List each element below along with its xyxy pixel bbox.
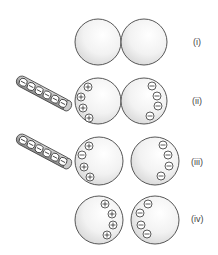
stage-label-ii: (ii) [192,96,202,106]
stage-label-i: (i) [193,37,201,47]
sphere-left [75,137,123,185]
sphere-right [131,137,179,185]
stage-ii [14,74,167,124]
stage-iii [14,132,179,185]
sphere-right [121,19,167,65]
charged-rod [14,74,73,112]
stage-label-iv: (iv) [191,214,204,224]
induction-diagram [0,0,218,255]
sphere-left [75,19,121,65]
sphere-right [131,196,179,244]
stage-label-iii: (iii) [191,157,203,167]
sphere-left [75,196,123,244]
stage-iv [75,196,179,244]
stage-i [75,19,167,65]
charged-rod [14,132,73,170]
sphere-right [121,78,167,124]
